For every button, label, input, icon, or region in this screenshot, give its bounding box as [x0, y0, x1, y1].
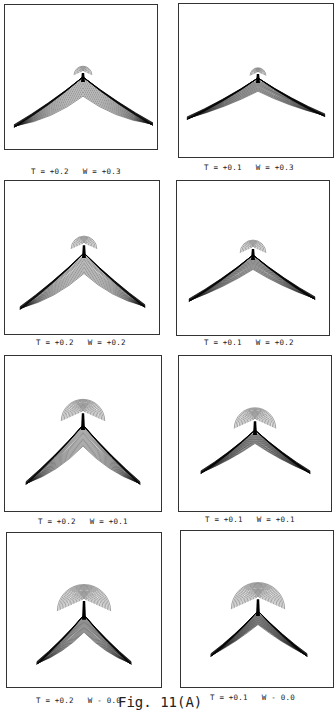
panel-label-r3r: T = +0.1 W = +0.1: [205, 515, 295, 524]
panel-label-r1r: T = +0.1 W = +0.3: [204, 163, 294, 172]
plot-panel-r4l: [6, 532, 162, 688]
curve-family-plot: [179, 356, 331, 511]
plot-panel-r1l: [4, 4, 158, 150]
plot-panel-r3l: [4, 355, 162, 512]
plot-panel-r2l: [4, 180, 160, 335]
curve-family-plot: [5, 356, 161, 511]
panel-label-r4r: T = +0.1 W - 0.0: [210, 693, 295, 702]
plot-panel-r3r: [178, 355, 332, 512]
curve-family-plot: [7, 533, 161, 687]
panel-label-r4l: T = +0.2 W - 0.0: [36, 696, 121, 705]
curve-family-plot: [177, 181, 329, 335]
curve-family-plot: [181, 531, 333, 687]
plot-panel-r2r: [176, 180, 330, 336]
panel-label-r1l: T = +0.2 W = +0.3: [31, 167, 121, 176]
plot-panel-r4r: [180, 530, 334, 688]
curve-family-plot: [5, 181, 159, 334]
curve-family-plot: [179, 4, 333, 157]
panel-label-r3l: T = +0.2 W = +0.1: [38, 517, 128, 526]
figure-caption: Fig. 11(A): [118, 694, 202, 710]
panel-label-r2l: T = +0.2 W = +0.2: [36, 338, 126, 347]
curve-family-plot: [5, 5, 157, 149]
panel-label-r2r: T = +0.1 W = +0.2: [204, 338, 294, 347]
plot-panel-r1r: [178, 3, 334, 158]
